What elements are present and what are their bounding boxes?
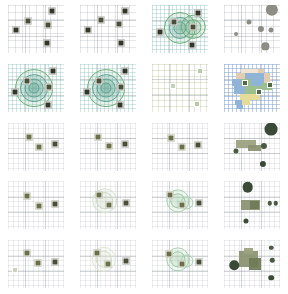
plot-area [8,181,64,229]
data-circle[interactable] [244,218,249,223]
data-marker[interactable] [49,67,56,74]
data-marker[interactable] [179,261,186,268]
data-marker[interactable] [122,258,129,265]
data-circle[interactable] [234,32,238,36]
data-marker[interactable] [106,142,113,149]
data-circle[interactable] [246,20,251,25]
small-multiples-grid [0,0,288,294]
data-marker[interactable] [197,68,203,74]
data-marker[interactable] [36,203,43,210]
data-marker[interactable] [93,249,100,256]
data-marker[interactable] [179,143,186,150]
panel-r3c2[interactable] [72,118,144,177]
panel-r5c4[interactable] [216,235,288,294]
data-marker[interactable] [35,260,42,267]
data-marker[interactable] [96,78,103,85]
data-marker[interactable] [118,40,125,47]
data-marker[interactable] [44,40,51,47]
plot-area [152,64,208,112]
data-circle[interactable] [242,182,253,193]
panel-r2c2[interactable] [72,59,144,118]
data-marker[interactable] [24,78,31,85]
data-marker[interactable] [156,28,163,35]
panel-r4c2[interactable] [72,176,144,235]
data-marker[interactable] [196,259,203,266]
data-marker[interactable] [242,80,248,86]
data-marker[interactable] [171,19,178,26]
data-marker[interactable] [121,67,128,74]
panel-r1c4[interactable] [216,0,288,59]
data-marker[interactable] [83,88,90,95]
data-marker[interactable] [256,89,262,95]
panel-r1c3[interactable] [144,0,216,59]
data-marker[interactable] [121,7,128,14]
data-marker[interactable] [196,200,203,207]
data-marker[interactable] [24,249,31,256]
data-marker[interactable] [165,250,172,257]
data-marker[interactable] [190,24,197,31]
data-marker[interactable] [168,134,175,141]
panel-r5c2[interactable] [72,235,144,294]
data-marker[interactable] [94,133,101,140]
data-circle[interactable] [268,275,274,281]
data-marker[interactable] [118,83,125,90]
panel-r4c1[interactable] [0,176,72,235]
panel-r3c4[interactable] [216,118,288,177]
data-marker[interactable] [194,141,201,148]
data-marker[interactable] [179,202,186,209]
panel-r1c2[interactable] [72,0,144,59]
data-circle[interactable] [269,27,274,32]
data-marker[interactable] [25,18,32,25]
data-marker[interactable] [52,140,59,147]
data-marker[interactable] [26,133,33,140]
data-marker[interactable] [117,102,124,109]
data-marker[interactable] [105,261,112,268]
axis-line-horizontal [224,271,280,272]
data-marker[interactable] [98,17,105,24]
data-marker[interactable] [189,42,196,49]
data-marker[interactable] [106,202,113,209]
data-marker[interactable] [116,21,123,28]
panel-r2c3[interactable] [144,59,216,118]
region-patch [244,248,253,254]
data-marker[interactable] [45,102,52,109]
axis-line-horizontal [224,36,280,37]
data-marker[interactable] [24,192,31,199]
data-marker[interactable] [52,201,59,208]
panel-r4c4[interactable] [216,176,288,235]
data-circle[interactable] [265,123,278,136]
panel-r3c1[interactable] [0,118,72,177]
data-marker[interactable] [267,82,273,88]
data-marker[interactable] [122,200,129,207]
data-marker[interactable] [194,9,201,16]
data-marker[interactable] [12,267,18,273]
panel-r2c1[interactable] [0,59,72,118]
plot-area [80,181,136,229]
data-marker[interactable] [84,26,91,33]
axis-line-vertical [25,5,26,53]
data-marker[interactable] [36,143,43,150]
data-marker[interactable] [11,88,18,95]
data-marker[interactable] [52,259,59,266]
data-marker[interactable] [194,101,200,107]
data-circle[interactable] [229,260,239,270]
data-marker[interactable] [45,22,52,29]
panel-r5c1[interactable] [0,235,72,294]
panel-r3c3[interactable] [144,118,216,177]
panel-r2c4[interactable] [216,59,288,118]
plot-area [224,240,280,288]
data-marker[interactable] [121,140,128,147]
panel-r1c1[interactable] [0,0,72,59]
axis-line-horizontal [152,153,208,154]
data-circle[interactable] [234,149,239,154]
data-marker[interactable] [166,191,173,198]
panel-r5c3[interactable] [144,235,216,294]
panel-r4c3[interactable] [144,176,216,235]
data-marker[interactable] [12,26,19,33]
data-marker[interactable] [46,83,53,90]
data-marker[interactable] [96,191,103,198]
data-marker[interactable] [48,7,55,14]
data-marker[interactable] [170,83,176,89]
map-block [237,105,243,109]
axis-line-horizontal [152,271,208,272]
